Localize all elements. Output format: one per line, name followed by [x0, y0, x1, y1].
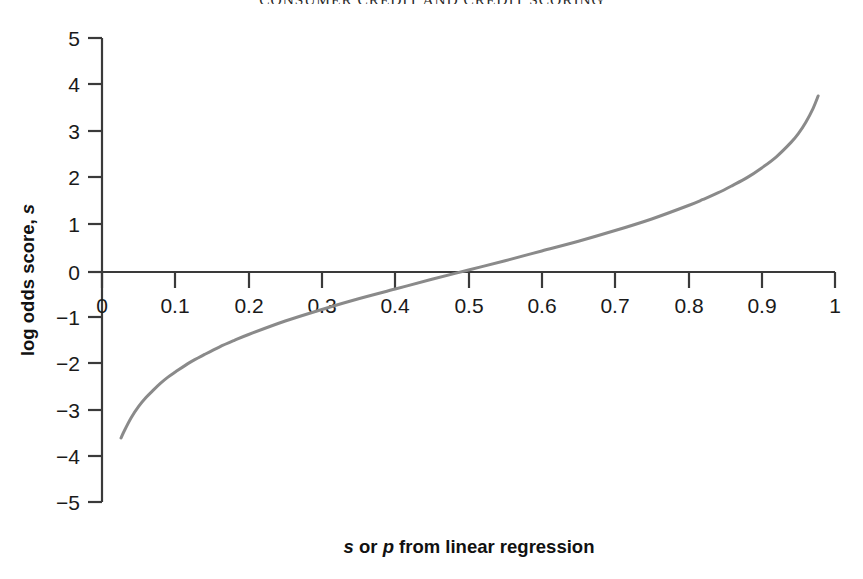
y-tick-label: −5 — [56, 491, 80, 514]
y-tick-label: 1 — [68, 213, 80, 236]
x-tick-label: 0.6 — [527, 294, 556, 317]
y-tick-label: 5 — [68, 27, 80, 50]
y-tick-label: 3 — [68, 120, 80, 143]
y-tick-label: −1 — [56, 306, 80, 329]
x-tick-label: 0.4 — [380, 294, 410, 317]
y-tick-label: −3 — [56, 399, 80, 422]
data-series-line — [121, 96, 818, 438]
x-tick-label: 0.5 — [454, 294, 483, 317]
x-tick-label: 0 — [96, 294, 108, 317]
y-tick-label: 2 — [68, 166, 80, 189]
x-tick-label: 0.2 — [234, 294, 263, 317]
y-tick-labels: 5 4 3 2 1 0 −1 −2 −3 −4 −5 — [56, 27, 80, 514]
x-tick-label: 0.9 — [747, 294, 776, 317]
y-tick-label: −4 — [56, 445, 80, 468]
chart-plot: 5 4 3 2 1 0 −1 −2 −3 −4 −5 0 — [0, 0, 863, 579]
x-tick-label: 0.8 — [674, 294, 703, 317]
y-axis-title: log odds score, s — [17, 204, 38, 356]
x-tick-label: 1 — [829, 294, 841, 317]
y-tick-label: 0 — [68, 261, 80, 284]
y-tick-label: −2 — [56, 352, 80, 375]
x-axis-title: s or p from linear regression — [344, 536, 595, 557]
x-tick-labels: 0 0.1 0.2 0.3 0.4 0.5 0.6 0.7 0.8 0.9 1 — [96, 294, 841, 317]
x-tick-label: 0.1 — [160, 294, 189, 317]
y-tick-marks — [88, 38, 102, 502]
figure-container: CONSUMER CREDIT AND CREDIT SCORING 5 4 3 — [0, 0, 863, 579]
x-tick-label: 0.7 — [600, 294, 629, 317]
y-tick-label: 4 — [68, 73, 80, 96]
